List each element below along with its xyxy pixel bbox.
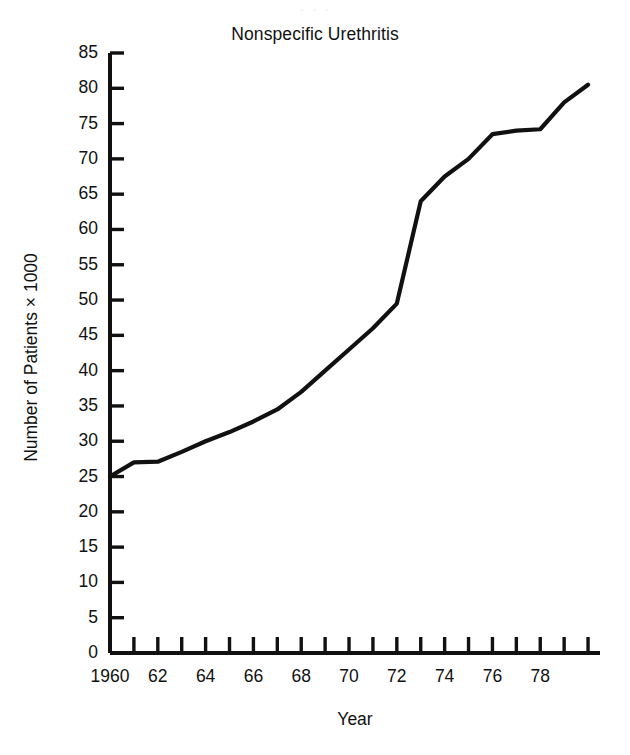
y-tick-label: 35 <box>50 397 98 415</box>
x-ticks-group <box>110 637 588 653</box>
axes-group <box>110 53 600 653</box>
y-tick-label: 75 <box>50 115 98 133</box>
y-tick-label: 30 <box>50 432 98 450</box>
chart-figure: · · · Nonspecific Urethritis Number of P… <box>0 0 630 755</box>
y-tick-label: 0 <box>50 644 98 662</box>
y-tick-label: 50 <box>50 291 98 309</box>
y-tick-label: 55 <box>50 256 98 274</box>
y-tick-label: 85 <box>50 44 98 62</box>
y-tick-label: 15 <box>50 538 98 556</box>
data-series-line <box>110 85 588 477</box>
x-tick-label: 78 <box>500 668 580 686</box>
y-tick-label: 10 <box>50 573 98 591</box>
y-tick-label: 5 <box>50 609 98 627</box>
y-tick-label: 20 <box>50 503 98 521</box>
y-tick-label: 65 <box>50 185 98 203</box>
y-tick-label: 60 <box>50 220 98 238</box>
y-ticks-group <box>110 53 124 653</box>
y-tick-label: 40 <box>50 362 98 380</box>
y-tick-label: 25 <box>50 468 98 486</box>
y-tick-label: 70 <box>50 150 98 168</box>
y-tick-label: 45 <box>50 326 98 344</box>
y-tick-label: 80 <box>50 79 98 97</box>
